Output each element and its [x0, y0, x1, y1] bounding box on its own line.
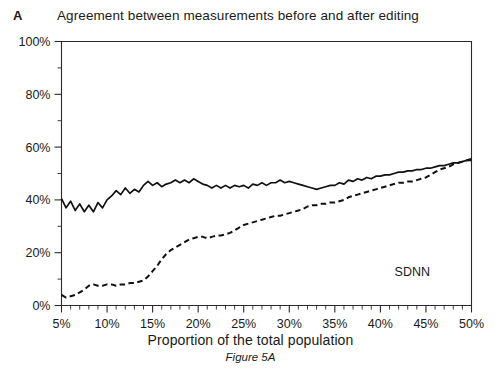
- x-tick-label: 45%: [413, 317, 438, 331]
- x-tick-label: 30%: [277, 317, 302, 331]
- y-tick-label: 80%: [25, 88, 50, 102]
- x-tick-label: 20%: [186, 317, 211, 331]
- y-tick-label: 20%: [25, 246, 50, 260]
- y-tick-label: 40%: [25, 193, 50, 207]
- data-series-line-1: [62, 160, 472, 211]
- y-axis-ticks: 0%20%40%60%80%100%: [19, 35, 62, 313]
- x-tick-label: 40%: [368, 317, 393, 331]
- x-axis-ticks: 5%10%15%20%25%30%35%40%45%50%: [52, 306, 484, 331]
- line-chart: 0%20%40%60%80%100% 5%10%15%20%25%30%35%4…: [0, 0, 501, 372]
- y-tick-label: 0%: [32, 299, 50, 313]
- x-tick-label: 10%: [95, 317, 120, 331]
- x-tick-label: 15%: [140, 317, 165, 331]
- x-axis-title: Proportion of the total population: [0, 332, 501, 348]
- x-tick-label: 25%: [231, 317, 256, 331]
- x-tick-label: 50%: [459, 317, 484, 331]
- x-tick-label: 5%: [52, 317, 70, 331]
- series-annotations: SDNN: [395, 265, 430, 279]
- y-tick-label: 60%: [25, 141, 50, 155]
- annotation-sdnn: SDNN: [395, 265, 430, 279]
- figure-panel-a: A Agreement between measurements before …: [0, 0, 501, 372]
- figure-caption: Figure 5A: [0, 351, 501, 363]
- y-tick-label: 100%: [19, 35, 51, 49]
- x-tick-label: 35%: [322, 317, 347, 331]
